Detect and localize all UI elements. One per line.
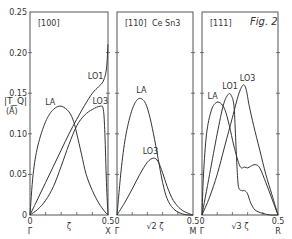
series-label: LO3	[240, 74, 256, 83]
material-label: Ce Sn3	[152, 19, 180, 28]
x-start-point: Γ	[28, 227, 33, 236]
series-label: LO3	[92, 97, 108, 106]
panel-direction-label: [110]	[125, 19, 147, 28]
series-label: LO3	[143, 147, 159, 156]
series-label: LA	[136, 86, 147, 95]
series-lo3-curve	[202, 85, 278, 215]
x-start-value: 0	[27, 217, 32, 226]
y-tick-label: 0.20	[9, 49, 27, 58]
panel-1: [110]Ce Sn30Γ0.5M√2 ζLALO3	[114, 12, 199, 236]
series-lo1-curve	[202, 94, 278, 216]
series-lo3-curve	[117, 158, 193, 215]
x-start-point: Γ	[115, 227, 120, 236]
y-tick-label: 0.25	[9, 8, 27, 17]
series-label: LA	[208, 92, 219, 101]
x-axis-label: ζ	[67, 222, 71, 231]
series-label: LA	[45, 98, 56, 107]
series-la-curve	[30, 106, 108, 215]
x-end-point: R	[275, 227, 281, 236]
series-la-curve	[117, 98, 193, 215]
series-la-curve	[202, 102, 278, 215]
y-tick-label: 0	[22, 211, 27, 220]
panel-2: [111]0Γ0.5R√3 ζLALO1LO3	[199, 12, 284, 236]
x-axis-label: √2 ζ	[146, 222, 163, 231]
series-lo1-curve	[30, 44, 108, 215]
series-label: LO1	[222, 82, 238, 91]
x-start-point: Γ	[200, 227, 205, 236]
x-end-point: M	[190, 227, 197, 236]
chart: 00.050.100.150.200.25 |T_Q| (Å) [100]0Γ0…	[0, 0, 292, 239]
y-axis-title-line2: (Å)	[6, 105, 18, 116]
figure-title: Fig. 2	[250, 16, 278, 27]
x-axis-label: √3 ζ	[231, 222, 248, 231]
series-label: LO1	[88, 72, 104, 81]
x-end-value: 0.5	[272, 217, 285, 226]
y-axis-title-line1: |T_Q|	[4, 96, 27, 106]
panels: [100]0Γ0.5XζLALO1LO3[110]Ce Sn30Γ0.5M√2 …	[27, 12, 284, 236]
x-end-value: 0.5	[187, 217, 200, 226]
x-end-value: 0.5	[102, 217, 115, 226]
y-tick-label: 0.10	[9, 130, 27, 139]
y-tick-label: 0.05	[9, 170, 27, 179]
x-start-value: 0	[114, 217, 119, 226]
panel-direction-label: [100]	[38, 19, 60, 28]
x-end-point: X	[105, 227, 111, 236]
panel-frame	[117, 12, 193, 215]
panel-frame	[30, 12, 108, 215]
x-start-value: 0	[199, 217, 204, 226]
panel-0: [100]0Γ0.5XζLALO1LO3	[27, 12, 114, 236]
panel-direction-label: [111]	[210, 19, 232, 28]
